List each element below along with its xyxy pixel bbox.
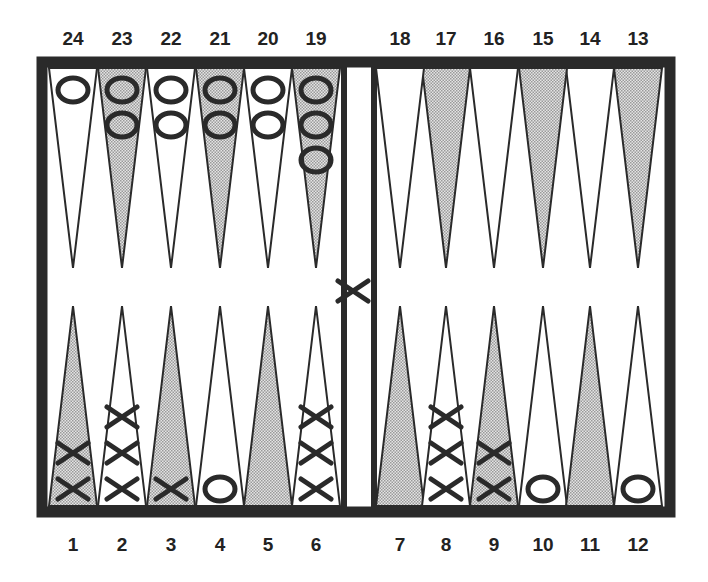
point-label-8: 8 <box>441 534 452 555</box>
point-triangle[interactable] <box>49 68 97 268</box>
point-3[interactable] <box>147 306 195 506</box>
point-label-13: 13 <box>627 28 648 49</box>
point-triangle[interactable] <box>147 68 195 268</box>
point-label-24: 24 <box>62 28 84 49</box>
bottom-point-labels: 123456789101112 <box>68 534 649 555</box>
point-triangle[interactable] <box>519 68 567 268</box>
point-label-14: 14 <box>579 28 601 49</box>
point-triangle[interactable] <box>292 68 340 268</box>
point-triangle[interactable] <box>49 306 97 506</box>
point-triangle[interactable] <box>614 68 662 268</box>
point-label-16: 16 <box>483 28 504 49</box>
point-1[interactable] <box>49 306 97 506</box>
point-triangle[interactable] <box>566 68 614 268</box>
point-20[interactable] <box>244 68 292 268</box>
top-point-labels: 242322212019181716151413 <box>62 28 648 49</box>
point-label-7: 7 <box>395 534 406 555</box>
point-23[interactable] <box>98 68 146 268</box>
point-19[interactable] <box>292 68 340 268</box>
point-24[interactable] <box>49 68 97 268</box>
point-triangle[interactable] <box>147 306 195 506</box>
point-label-18: 18 <box>389 28 410 49</box>
point-label-17: 17 <box>435 28 456 49</box>
point-label-23: 23 <box>111 28 132 49</box>
point-label-2: 2 <box>117 534 128 555</box>
point-triangle[interactable] <box>98 68 146 268</box>
point-label-20: 20 <box>257 28 278 49</box>
point-label-9: 9 <box>489 534 500 555</box>
point-11[interactable] <box>566 306 614 506</box>
point-label-22: 22 <box>160 28 181 49</box>
point-label-19: 19 <box>305 28 326 49</box>
bar-right-rail <box>371 66 377 508</box>
point-triangle[interactable] <box>470 68 518 268</box>
point-triangle[interactable] <box>376 306 424 506</box>
point-17[interactable] <box>422 68 470 268</box>
point-5[interactable] <box>244 306 292 506</box>
point-7[interactable] <box>376 306 424 506</box>
point-14[interactable] <box>566 68 614 268</box>
point-triangle[interactable] <box>566 306 614 506</box>
point-label-1: 1 <box>68 534 79 555</box>
point-triangle[interactable] <box>196 68 244 268</box>
point-21[interactable] <box>196 68 244 268</box>
point-9[interactable] <box>470 306 518 506</box>
point-label-21: 21 <box>209 28 231 49</box>
point-triangle[interactable] <box>470 306 518 506</box>
point-label-5: 5 <box>263 534 274 555</box>
point-label-12: 12 <box>627 534 648 555</box>
point-label-6: 6 <box>311 534 322 555</box>
point-18[interactable] <box>376 68 424 268</box>
point-15[interactable] <box>519 68 567 268</box>
point-triangle[interactable] <box>244 306 292 506</box>
point-13[interactable] <box>614 68 662 268</box>
point-label-3: 3 <box>166 534 177 555</box>
point-label-15: 15 <box>532 28 554 49</box>
point-label-10: 10 <box>532 534 553 555</box>
point-triangle[interactable] <box>422 68 470 268</box>
backgammon-board: 242322212019181716151413 123456789101112 <box>0 0 708 582</box>
point-triangle[interactable] <box>244 68 292 268</box>
point-label-4: 4 <box>215 534 226 555</box>
point-22[interactable] <box>147 68 195 268</box>
point-triangle[interactable] <box>376 68 424 268</box>
point-label-11: 11 <box>580 534 601 555</box>
point-16[interactable] <box>470 68 518 268</box>
